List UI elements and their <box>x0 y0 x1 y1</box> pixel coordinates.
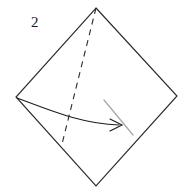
step-number-label: 2 <box>31 14 39 30</box>
origami-diagram-canvas: 2 <box>0 0 193 194</box>
origami-step-diagram: 2 <box>0 0 193 194</box>
diagram-background <box>0 0 193 194</box>
